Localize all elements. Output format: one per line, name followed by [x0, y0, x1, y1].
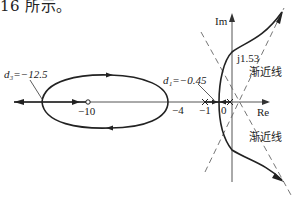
locus-arrow-icon — [212, 100, 218, 105]
real-axis-label: Re — [257, 106, 269, 118]
imag-crossing-label: j1.53 — [236, 52, 260, 64]
root-locus-diagram: Re Im d₃=−12.5 −10 −4 −1 0 — [0, 0, 293, 203]
tick-0: 0 — [221, 104, 227, 116]
tick-minus-4: −4 — [172, 104, 184, 116]
real-axis-arrow-icon — [262, 99, 270, 105]
tick-minus-1: −1 — [199, 104, 211, 116]
d1-label: d₁=−0.45 — [163, 74, 207, 86]
imag-axis-arrow-icon — [229, 13, 235, 22]
complex-branches — [219, 12, 282, 180]
asymptote-label-upper: 渐近线 — [249, 65, 282, 79]
locus-arrow-top-icon — [106, 73, 113, 78]
tick-minus-10: −10 — [78, 105, 96, 117]
d3-label: d₃=−12.5 — [4, 68, 48, 80]
locus-arrow-bottom-icon — [106, 126, 113, 131]
imag-axis — [229, 13, 235, 182]
asymptote-label-lower: 渐近线 — [249, 130, 282, 144]
imag-axis-label: Im — [215, 15, 228, 27]
zero-marker — [86, 100, 90, 104]
branch-arrow-down-icon — [272, 173, 284, 182]
